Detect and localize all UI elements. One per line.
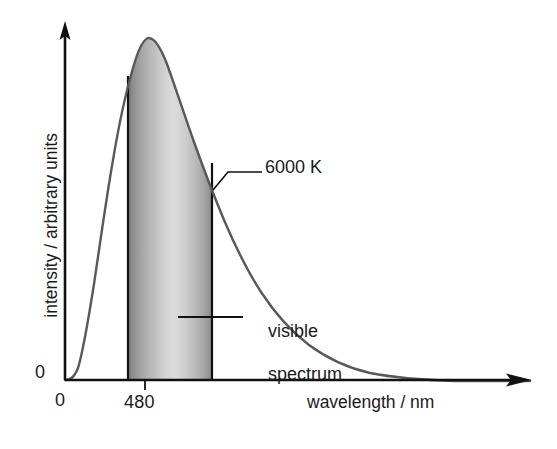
y-axis-origin-label: 0 <box>35 362 45 383</box>
annotation-visible-spectrum-line1: visible <box>268 321 318 341</box>
annotation-visible-spectrum-line2: spectrum <box>268 364 342 384</box>
x-axis-origin-label: 0 <box>55 390 65 411</box>
blackbody-spectrum-figure: intensity / arbitrary units wavelength /… <box>0 0 557 449</box>
annotation-visible-spectrum: visible spectrum <box>248 300 342 406</box>
visible-spectrum-band-fill <box>128 30 213 380</box>
y-axis-title: intensity / arbitrary units <box>41 110 62 340</box>
x-axis-tick-label-480: 480 <box>124 392 155 413</box>
leader-line-6000k <box>213 172 262 190</box>
visible-spectrum-band <box>128 30 213 380</box>
annotation-temperature-6000k: 6000 K <box>265 157 322 178</box>
